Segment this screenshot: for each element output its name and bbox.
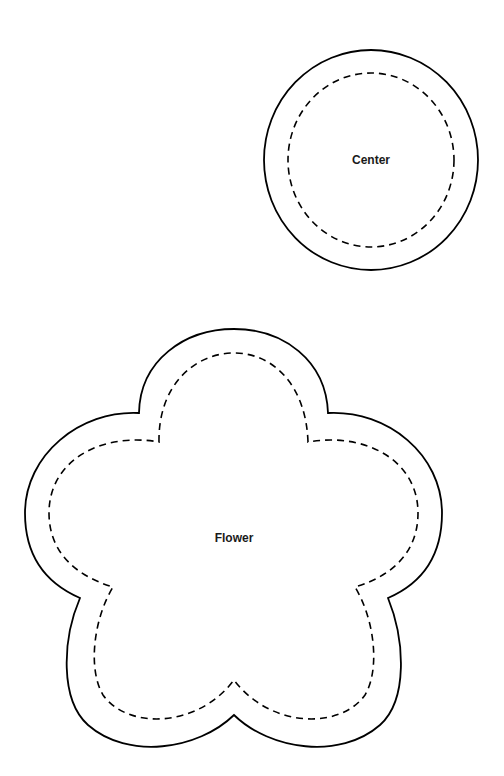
flower-piece: Flower	[25, 329, 442, 747]
template-sheet: Center Flower	[0, 0, 504, 776]
center-piece: Center	[264, 50, 478, 270]
center-label: Center	[352, 153, 390, 167]
flower-label: Flower	[215, 531, 254, 545]
